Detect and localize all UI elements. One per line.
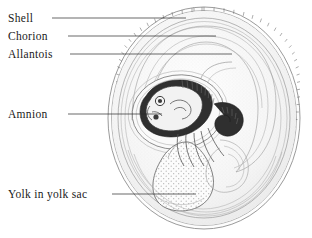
embryo-nostril	[153, 114, 158, 119]
label-chorion-text: Chorion	[8, 30, 48, 42]
egg-contents-group	[112, 11, 296, 225]
label-amnion-text: Amnion	[8, 108, 48, 120]
egg-diagram-page: Shell Chorion Allantois Amnion Yolk in y…	[0, 0, 312, 238]
label-shell-text: Shell	[8, 12, 33, 24]
label-yolk-text: Yolk in yolk sac	[8, 188, 87, 201]
egg-cross-section-diagram: Shell Chorion Allantois Amnion Yolk in y…	[0, 0, 312, 238]
embryo-pupil	[158, 99, 162, 103]
label-allantois-text: Allantois	[8, 48, 53, 60]
